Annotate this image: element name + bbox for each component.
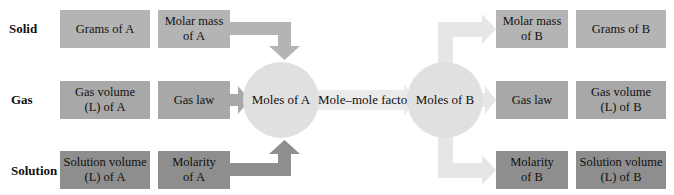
mole-mole-factor-label: Mole–mole factor bbox=[318, 92, 412, 108]
box-molarity-of-a: Molarity of A bbox=[158, 151, 230, 189]
circle-moles-of-a: Moles of A bbox=[243, 62, 319, 138]
arrow-moles-b-to-gas bbox=[482, 86, 496, 114]
arrow-solution-to-moles-a bbox=[228, 140, 300, 176]
stoichiometry-diagram: Solid Gas Solution Grams of A Molar mass… bbox=[0, 0, 674, 195]
arrow-moles-b-to-solid bbox=[438, 14, 496, 68]
box-molarity-of-b: Molarity of B bbox=[496, 151, 568, 189]
row-label-solution: Solution bbox=[11, 163, 57, 179]
row-label-solid: Solid bbox=[9, 21, 37, 37]
box-molar-mass-of-a: Molar mass of A bbox=[158, 10, 230, 48]
circle-moles-of-b: Moles of B bbox=[407, 62, 483, 138]
box-gas-volume-of-a: Gas volume (L) of A bbox=[60, 81, 150, 119]
box-gas-law-a: Gas law bbox=[158, 81, 230, 119]
box-molar-mass-of-b: Molar mass of B bbox=[496, 10, 568, 48]
arrow-moles-b-to-solution bbox=[438, 132, 496, 185]
box-solution-volume-of-a: Solution volume (L) of A bbox=[60, 151, 150, 189]
row-label-gas: Gas bbox=[11, 92, 33, 108]
arrow-solid-to-moles-a bbox=[228, 22, 300, 60]
box-gas-volume-of-b: Gas volume (L) of B bbox=[576, 81, 666, 119]
box-solution-volume-of-b: Solution volume (L) of B bbox=[576, 151, 666, 189]
box-grams-of-b: Grams of B bbox=[576, 10, 666, 48]
box-grams-of-a: Grams of A bbox=[60, 10, 150, 48]
box-gas-law-b: Gas law bbox=[496, 81, 568, 119]
